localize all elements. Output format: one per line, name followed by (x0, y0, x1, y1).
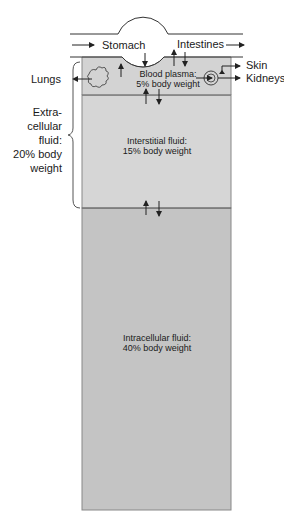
skin-label: Skin (246, 59, 267, 71)
intracellular-compartment (82, 208, 231, 510)
stomach-label: Stomach (102, 39, 145, 51)
interstitial-fluid-label: Interstitial fluid: 15% body weight (107, 136, 207, 156)
kidneys-label: Kidneys (246, 72, 284, 84)
gi-tract-upper-wall (70, 17, 243, 34)
extracellular-brace (68, 62, 80, 208)
intracellular-fluid-label: Intracellular fluid: 40% body weight (107, 333, 207, 353)
blood-plasma-label: Blood plasma: 5% body weight (130, 69, 206, 89)
lungs-label: Lungs (31, 73, 61, 85)
intestines-label: Intestines (177, 38, 224, 50)
extracellular-label: Extra- cellular fluid: 20% body weight (4, 105, 62, 175)
